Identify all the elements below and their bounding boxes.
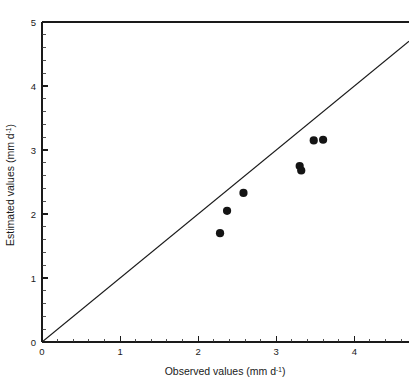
data-point-marker — [223, 207, 231, 215]
x-tick-label: 0 — [39, 346, 44, 357]
x-tick-label: 3 — [274, 346, 279, 357]
plot-canvas: 01234 012345 Observed values (mm d-1) Es… — [0, 0, 409, 382]
x-tick-label: 1 — [117, 346, 122, 357]
data-point-marker — [310, 136, 318, 144]
y-axis-major-ticks — [42, 22, 48, 342]
x-tick-label: 2 — [196, 346, 201, 357]
y-tick-label: 0 — [31, 337, 36, 348]
y-tick-label: 3 — [31, 145, 36, 156]
data-point-marker — [239, 189, 247, 197]
y-axis-title: Estimated values (mm d-1) — [4, 124, 16, 246]
data-point-marker — [297, 166, 305, 174]
y-axis-tick-labels: 012345 — [31, 17, 36, 348]
y-tick-label: 5 — [31, 17, 36, 28]
plot-frame — [42, 22, 409, 342]
x-axis-title: Observed values (mm d-1) — [165, 365, 286, 377]
data-points — [216, 136, 327, 238]
data-point-marker — [319, 136, 327, 144]
identity-line-1to1 — [42, 41, 409, 342]
y-tick-label: 4 — [31, 81, 36, 92]
y-tick-label: 2 — [31, 209, 36, 220]
data-point-marker — [216, 229, 224, 237]
x-tick-label: 4 — [352, 346, 357, 357]
x-axis-tick-labels: 01234 — [39, 346, 357, 357]
identity-line-segment — [42, 41, 409, 342]
scatter-plot-figure: 01234 012345 Observed values (mm d-1) Es… — [0, 0, 409, 382]
y-tick-label: 1 — [31, 273, 36, 284]
